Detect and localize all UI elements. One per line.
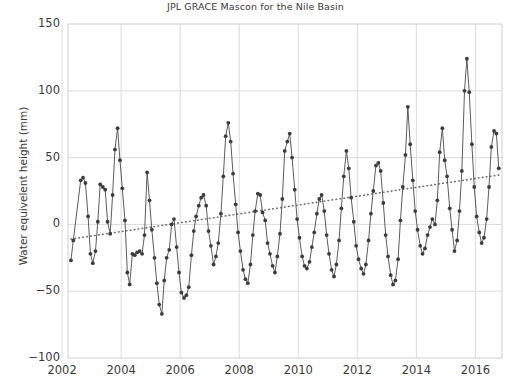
x-tick-label: 2006 (157, 363, 203, 377)
x-tick-label: 2014 (393, 363, 439, 377)
y-tick-label: 0 (18, 216, 60, 230)
trend-line (71, 175, 499, 239)
gridlines (62, 24, 502, 358)
chart-figure: JPL GRACE Mascon for the Nile Basin Wate… (0, 0, 511, 387)
data-point-markers (69, 57, 501, 316)
x-tick-label: 2008 (216, 363, 262, 377)
x-tick-label: 2010 (275, 363, 321, 377)
plot-border (68, 24, 502, 358)
x-tick-label: 2004 (98, 363, 144, 377)
data-series-line (71, 59, 499, 314)
x-tick-label: 2016 (452, 363, 498, 377)
y-tick-label: 50 (18, 150, 60, 164)
y-tick-label: 100 (18, 83, 60, 97)
y-tick-label: −50 (18, 283, 60, 297)
plot-area (0, 0, 511, 387)
y-tick-label: 150 (18, 16, 60, 30)
x-tick-label: 2012 (334, 363, 380, 377)
y-tick-label: −100 (18, 350, 60, 364)
x-tick-label: 2002 (39, 363, 85, 377)
